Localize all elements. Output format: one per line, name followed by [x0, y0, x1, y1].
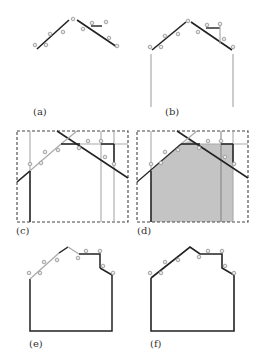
panel-a	[33, 17, 119, 49]
panel-label-c: (c)	[16, 225, 29, 236]
panel-f	[148, 247, 236, 331]
panel-e	[27, 247, 115, 331]
panel-b	[148, 19, 235, 107]
figure-canvas	[0, 0, 260, 363]
panel-label-f: (f)	[150, 338, 162, 349]
panel-label-e: (e)	[29, 338, 43, 349]
panel-d	[137, 131, 248, 222]
panel-label-a: (a)	[33, 106, 47, 117]
panel-c	[17, 131, 128, 222]
panel-label-b: (b)	[165, 106, 179, 117]
panel-label-d: (d)	[137, 225, 151, 236]
